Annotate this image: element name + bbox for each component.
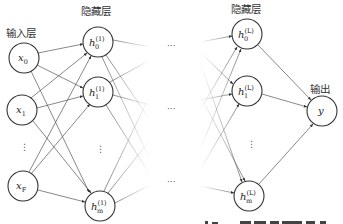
svg-text:0: 0 — [244, 35, 248, 43]
edges-hiddenL-to-output — [258, 45, 313, 184]
svg-text:0: 0 — [95, 43, 99, 51]
horizontal-ellipsis-top: ··· — [167, 41, 176, 51]
edges-fade-into-hiddenL — [200, 36, 245, 193]
vertical-ellipsis-input: ⋮ — [20, 142, 29, 152]
horizontal-ellipsis-bottom: ··· — [167, 177, 176, 187]
svg-text:1: 1 — [95, 93, 99, 101]
node-h0-layerL: h(L) 0 — [232, 19, 262, 49]
node-x0: x0 — [9, 43, 39, 73]
hidden-layer-L-label: 隐藏层 — [231, 3, 261, 15]
node-h0-layer1: h(1) 0 — [83, 27, 113, 57]
edges-hidden1-fade-out — [102, 40, 150, 203]
hidden-layer-1-label: 隐藏层 — [81, 5, 111, 17]
neural-network-diagram: 输入层 隐藏层 隐藏层 输出 — [0, 0, 343, 224]
node-h1-layerL: h(L) 1 — [232, 76, 262, 106]
cropped-caption-fragment — [205, 221, 326, 224]
node-x1: x1 — [7, 95, 37, 125]
node-xF: xF — [8, 171, 38, 201]
edges-input-to-hidden1 — [29, 44, 91, 202]
output-layer-label: 输出 — [310, 83, 330, 95]
svg-text:1: 1 — [244, 92, 248, 100]
svg-text:y: y — [317, 105, 324, 116]
input-layer-label: 输入层 — [6, 27, 36, 39]
svg-text:m: m — [246, 197, 252, 205]
node-y-output: y — [307, 96, 337, 126]
horizontal-ellipsis-middle: ··· — [167, 104, 176, 114]
node-hm-layer1: h(1) m — [85, 191, 115, 221]
svg-text:m: m — [97, 207, 103, 215]
node-h1-layer1: h(1) 1 — [83, 77, 113, 107]
vertical-ellipsis-hiddenL: ⋮ — [247, 139, 256, 149]
vertical-ellipsis-hidden1: ⋮ — [96, 144, 105, 154]
node-hm-layerL: h(L) m — [234, 181, 264, 211]
